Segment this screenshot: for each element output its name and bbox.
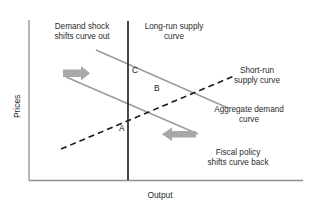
economics-diagram: Prices Output Demand shock shifts curve … (0, 0, 319, 209)
fiscal-policy-arrow (162, 128, 196, 141)
y-axis-label: Prices (12, 95, 22, 118)
annotation-demand-shock: Demand shock shifts curve out (34, 22, 130, 42)
annotation-aggregate-demand: Aggregate demand curve (197, 105, 301, 125)
annotation-long-run-supply: Long-run supply curve (133, 22, 215, 42)
annotation-short-run-supply: Short-run supply curve (215, 66, 299, 86)
point-label-a: A (119, 124, 125, 133)
x-axis-label: Output (130, 190, 190, 200)
point-label-c: C (132, 66, 138, 75)
point-label-b: B (154, 84, 160, 93)
annotation-fiscal-policy: Fiscal policy shifts curve back (184, 148, 292, 168)
